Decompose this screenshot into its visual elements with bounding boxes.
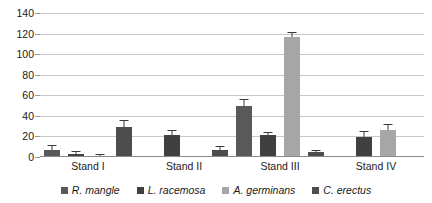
y-tick-label: 120 bbox=[16, 29, 34, 39]
y-tick-mark bbox=[35, 34, 40, 35]
bar-slot bbox=[212, 13, 228, 157]
y-tick-mark bbox=[35, 136, 40, 137]
error-bar bbox=[244, 100, 245, 105]
x-tick-label: Stand III bbox=[232, 160, 328, 174]
bar bbox=[236, 106, 252, 157]
error-bar bbox=[124, 121, 125, 127]
y-tick-label: 140 bbox=[16, 8, 34, 18]
bar-slot bbox=[116, 13, 132, 157]
y-tick-mark bbox=[35, 157, 40, 158]
bar-slot bbox=[308, 13, 324, 157]
bar bbox=[260, 135, 276, 157]
error-bar-cap bbox=[72, 151, 81, 152]
error-bar-cap bbox=[96, 154, 105, 155]
bar bbox=[164, 135, 180, 157]
y-tick-label: 20 bbox=[22, 131, 34, 141]
chart-legend: R. mangleL. racemosaA. germinansC. erect… bbox=[0, 182, 432, 198]
plot-area bbox=[40, 13, 424, 157]
y-tick-label: 60 bbox=[22, 90, 34, 100]
x-tick-label: Stand I bbox=[40, 160, 136, 174]
bar-slot bbox=[332, 13, 348, 157]
bar-group bbox=[232, 13, 328, 157]
error-bar bbox=[52, 146, 53, 150]
bar bbox=[116, 127, 132, 157]
x-axis-labels: Stand IStand IIStand IIIStand IV bbox=[40, 160, 424, 174]
bar-slot bbox=[356, 13, 372, 157]
legend-item: L. racemosa bbox=[137, 185, 206, 196]
legend-label: L. racemosa bbox=[148, 185, 206, 196]
error-bar-cap bbox=[264, 132, 273, 133]
legend-label: C. erectus bbox=[323, 185, 371, 196]
error-bar-cap bbox=[360, 131, 369, 132]
bar-group bbox=[328, 13, 424, 157]
error-bar bbox=[292, 33, 293, 37]
y-tick-label: 0 bbox=[28, 152, 34, 162]
error-bar-cap bbox=[288, 32, 297, 33]
bar-slot bbox=[164, 13, 180, 157]
y-tick-mark bbox=[35, 75, 40, 76]
error-bar-cap bbox=[168, 130, 177, 131]
bar-slot bbox=[44, 13, 60, 157]
error-bar bbox=[76, 152, 77, 154]
legend-swatch-icon bbox=[312, 187, 319, 194]
bar-slot bbox=[140, 13, 156, 157]
error-bar bbox=[388, 125, 389, 130]
bar-slot bbox=[68, 13, 84, 157]
y-tick-mark bbox=[35, 54, 40, 55]
bar-groups bbox=[40, 13, 424, 157]
legend-swatch-icon bbox=[137, 187, 144, 194]
error-bar bbox=[220, 147, 221, 150]
bar bbox=[284, 37, 300, 157]
error-bar-cap bbox=[216, 146, 225, 147]
legend-item: C. erectus bbox=[312, 185, 371, 196]
error-bar-cap bbox=[48, 145, 57, 146]
legend-item: A. germinans bbox=[222, 185, 295, 196]
x-tick-label: Stand II bbox=[136, 160, 232, 174]
legend-swatch-icon bbox=[61, 187, 68, 194]
bar-slot bbox=[260, 13, 276, 157]
bar-chart: 020406080100120140 Stand IStand IIStand … bbox=[0, 0, 432, 203]
error-bar-cap bbox=[384, 124, 393, 125]
y-axis-labels: 020406080100120140 bbox=[0, 13, 34, 157]
error-bar bbox=[268, 133, 269, 135]
bar bbox=[380, 130, 396, 157]
error-bar-cap bbox=[120, 120, 129, 121]
bar-slot bbox=[380, 13, 396, 157]
legend-item: R. mangle bbox=[61, 185, 120, 196]
y-tick-mark bbox=[35, 116, 40, 117]
axis-baseline bbox=[40, 156, 424, 157]
y-tick-mark bbox=[35, 13, 40, 14]
bar-group bbox=[40, 13, 136, 157]
error-bar bbox=[172, 131, 173, 135]
bar-slot bbox=[92, 13, 108, 157]
legend-label: A. germinans bbox=[233, 185, 295, 196]
bar-slot bbox=[236, 13, 252, 157]
y-tick-label: 40 bbox=[22, 111, 34, 121]
error-bar-cap bbox=[240, 99, 249, 100]
bar-slot bbox=[188, 13, 204, 157]
bar bbox=[356, 137, 372, 157]
error-bar bbox=[364, 132, 365, 137]
legend-swatch-icon bbox=[222, 187, 229, 194]
error-bar bbox=[316, 151, 317, 152]
y-tick-label: 100 bbox=[16, 49, 34, 59]
error-bar-cap bbox=[312, 150, 321, 151]
legend-label: R. mangle bbox=[72, 185, 120, 196]
bar-slot bbox=[284, 13, 300, 157]
bar-slot bbox=[404, 13, 420, 157]
y-tick-mark bbox=[35, 95, 40, 96]
bar-group bbox=[136, 13, 232, 157]
x-tick-label: Stand IV bbox=[328, 160, 424, 174]
y-tick-label: 80 bbox=[22, 70, 34, 80]
